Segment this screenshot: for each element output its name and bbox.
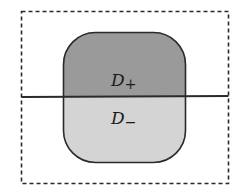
label-d-plus-base: D <box>110 70 125 90</box>
label-d-plus-subscript: + <box>125 76 137 92</box>
dividing-line <box>22 96 229 97</box>
diagram-canvas: D+ D− <box>0 0 244 193</box>
label-d-minus-base: D <box>110 108 125 128</box>
label-d-minus-subscript: − <box>125 114 137 130</box>
domain-split-diagram: D+ D− <box>0 0 244 193</box>
